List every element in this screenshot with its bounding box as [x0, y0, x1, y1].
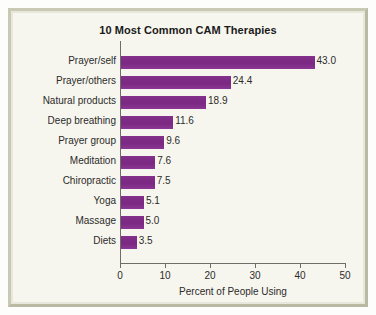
bar-row: Prayer/others24.4: [11, 76, 365, 89]
figure-frame: 10 Most Common CAM Therapies 01020304050…: [8, 8, 368, 307]
x-tick-20: [210, 263, 211, 268]
bar-row: Chiropractic7.5: [11, 176, 365, 189]
chart-page: 10 Most Common CAM Therapies 01020304050…: [0, 0, 376, 315]
category-label: Chiropractic: [11, 175, 116, 186]
bar-value-label: 11.6: [175, 115, 194, 126]
x-axis-title: Percent of People Using: [120, 286, 346, 297]
bar-value-label: 43.0: [317, 55, 336, 66]
bar-value-label: 7.6: [157, 155, 171, 166]
bar-value-label: 9.6: [166, 135, 180, 146]
category-label: Yoga: [11, 195, 116, 206]
bar: [121, 236, 137, 249]
bar-value-label: 5.0: [146, 215, 160, 226]
category-label: Prayer/self: [11, 55, 116, 66]
bar-row: Diets3.5: [11, 236, 365, 249]
x-tick-label-50: 50: [325, 270, 365, 281]
category-label: Prayer/others: [11, 75, 116, 86]
x-axis-line: [120, 263, 346, 264]
bar-row: Massage5.0: [11, 216, 365, 229]
bar-value-label: 18.9: [208, 95, 227, 106]
bar: [121, 96, 206, 109]
bar: [121, 116, 173, 129]
bar: [121, 196, 144, 209]
bar-row: Deep breathing11.6: [11, 116, 365, 129]
x-tick-label-40: 40: [280, 270, 320, 281]
bar: [121, 156, 155, 169]
category-label: Massage: [11, 215, 116, 226]
category-label: Meditation: [11, 155, 116, 166]
x-tick-label-30: 30: [235, 270, 275, 281]
bar-value-label: 5.1: [146, 195, 160, 206]
x-tick-label-10: 10: [145, 270, 185, 281]
x-tick-label-20: 20: [190, 270, 230, 281]
x-tick-30: [255, 263, 256, 268]
bar-row: Prayer/self43.0: [11, 56, 365, 69]
bar: [121, 216, 144, 229]
bar-row: Yoga5.1: [11, 196, 365, 209]
bar-value-label: 24.4: [233, 75, 252, 86]
bar: [121, 136, 164, 149]
category-label: Prayer group: [11, 135, 116, 146]
bar: [121, 76, 231, 89]
category-label: Natural products: [11, 95, 116, 106]
category-label: Deep breathing: [11, 115, 116, 126]
category-label: Diets: [11, 235, 116, 246]
bar-chart-plot-area: 01020304050 Prayer/self43.0Prayer/others…: [11, 11, 365, 304]
bar-row: Prayer group9.6: [11, 136, 365, 149]
bar-value-label: 3.5: [139, 235, 153, 246]
x-tick-label-0: 0: [100, 270, 140, 281]
bar: [121, 56, 315, 69]
bar-row: Natural products18.9: [11, 96, 365, 109]
x-tick-0: [120, 263, 121, 268]
y-axis-line: [120, 41, 121, 263]
x-tick-40: [300, 263, 301, 268]
bar-value-label: 7.5: [157, 175, 171, 186]
bar-row: Meditation7.6: [11, 156, 365, 169]
bar: [121, 176, 155, 189]
x-tick-10: [165, 263, 166, 268]
x-tick-50: [345, 263, 346, 268]
